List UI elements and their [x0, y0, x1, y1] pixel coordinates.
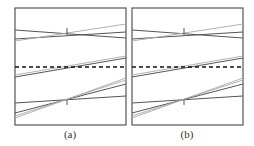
panel-b-line-3 — [132, 56, 243, 75]
caption-b: (b) — [157, 128, 217, 140]
caption-a: (a) — [40, 128, 100, 140]
panel-b-line-1 — [132, 32, 243, 39]
panel-a-line-6 — [15, 84, 126, 113]
panel-a-line-5 — [15, 96, 126, 103]
panel-a-line-3 — [15, 56, 126, 75]
panel-b-line-8 — [132, 78, 243, 118]
panel-a-line-0 — [15, 30, 126, 38]
panel-b-line-2 — [132, 24, 243, 41]
panel-b-line-0 — [132, 30, 243, 38]
panel-a-line-1 — [15, 32, 126, 39]
panel-b-line-5 — [132, 96, 243, 103]
panel-b-line-6 — [132, 84, 243, 113]
panel-a-line-8 — [15, 78, 126, 118]
panel-a-line-2 — [15, 24, 126, 41]
figure — [0, 0, 254, 146]
